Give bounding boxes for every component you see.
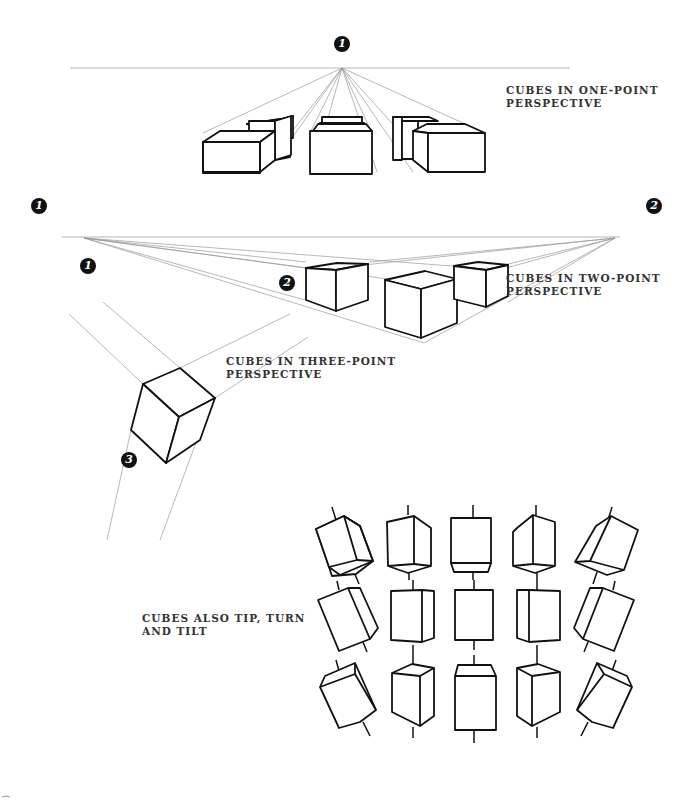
vanishing-point-badge-three-point-2: 2 bbox=[279, 275, 295, 291]
cube-grid-r1-c3 bbox=[451, 505, 491, 580]
cube-grid-r3-c1 bbox=[320, 660, 376, 736]
vanishing-point-badge-two-point-1: 1 bbox=[31, 198, 47, 214]
label-line-2: AND TILT bbox=[142, 625, 305, 638]
cube-grid-r2-c3 bbox=[455, 580, 493, 650]
vanishing-point-badge-one-point-1: 1 bbox=[334, 36, 350, 52]
one-point-perspective-group bbox=[70, 68, 570, 174]
cube-grid-r1-c2 bbox=[387, 505, 431, 580]
cube-grid-r2-c2 bbox=[391, 580, 434, 655]
vanishing-point-badge-two-point-2: 2 bbox=[646, 198, 662, 214]
cube-grid-r1-c4 bbox=[513, 505, 555, 580]
perspective-cubes-diagram: 1 1 2 1 2 3 CUBES IN ONE-POINT PERSPECTI… bbox=[0, 0, 683, 803]
cube-one-point-right-front bbox=[413, 124, 485, 172]
label-line-1: CUBES IN ONE-POINT bbox=[506, 84, 658, 97]
cube-grid-r3-c3 bbox=[455, 655, 496, 743]
label-one-point-perspective: CUBES IN ONE-POINT PERSPECTIVE bbox=[506, 84, 658, 110]
label-line-2: PERSPECTIVE bbox=[506, 97, 658, 110]
cube-two-point-b bbox=[385, 271, 457, 338]
corner-mark bbox=[2, 796, 10, 797]
label-two-point-perspective: CUBES IN TWO-POINT PERSPECTIVE bbox=[506, 272, 661, 298]
vanishing-point-badge-three-point-3: 3 bbox=[121, 452, 137, 468]
cube-two-point-a bbox=[306, 263, 368, 311]
cube-grid-r3-c5 bbox=[577, 660, 632, 736]
cube-grid-r2-c5 bbox=[574, 581, 634, 652]
label-line-2: PERSPECTIVE bbox=[226, 368, 396, 381]
cube-one-point-center-front bbox=[310, 124, 372, 174]
label-line-2: PERSPECTIVE bbox=[506, 285, 661, 298]
label-line-1: CUBES ALSO TIP, TURN bbox=[142, 612, 305, 625]
cube-grid-r2-c1 bbox=[318, 581, 378, 652]
cube-grid-r2-c4 bbox=[517, 580, 560, 655]
vanishing-point-badge-three-point-1: 1 bbox=[80, 258, 96, 274]
cube-grid-r1-c5 bbox=[575, 507, 638, 584]
cube-grid-r1-c1 bbox=[316, 507, 373, 584]
tip-turn-tilt-grid bbox=[316, 505, 638, 743]
label-line-1: CUBES IN THREE-POINT bbox=[226, 355, 396, 368]
three-point-perspective-group bbox=[69, 302, 308, 540]
label-line-1: CUBES IN TWO-POINT bbox=[506, 272, 661, 285]
cube-three-point bbox=[131, 368, 215, 463]
cube-grid-r3-c4 bbox=[517, 655, 560, 738]
cube-one-point-left-front bbox=[203, 131, 275, 173]
label-three-point-perspective: CUBES IN THREE-POINT PERSPECTIVE bbox=[226, 355, 396, 381]
cube-two-point-c bbox=[454, 262, 508, 307]
cube-grid-r3-c2 bbox=[392, 655, 434, 738]
label-tip-turn-tilt: CUBES ALSO TIP, TURN AND TILT bbox=[142, 612, 305, 638]
